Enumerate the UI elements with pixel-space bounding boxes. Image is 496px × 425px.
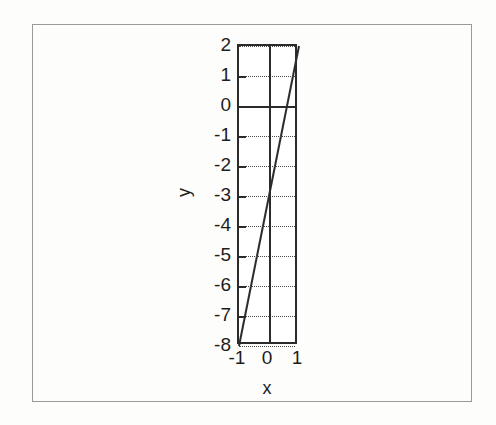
y-tick-label: -1 [214,125,231,144]
y-tick-label: 1 [220,65,231,84]
y-axis-tick-labels: 210-1-2-3-4-5-6-7-8 [195,44,231,344]
y-gridline [239,316,295,317]
y-tick-label: -4 [214,215,231,234]
y-tick-mark [239,286,246,288]
y-tick-mark [239,136,246,138]
y-tick-label: -7 [214,305,231,324]
y-gridline [239,136,295,137]
y-axis-title: y [174,173,195,213]
y-gridline [239,256,295,257]
figure-page: 210-1-2-3-4-5-6-7-8 -101 x y [0,0,496,425]
y-tick-mark [239,226,246,228]
y-tick-mark [239,166,246,168]
y-zero-axis-line [239,106,295,108]
y-tick-label: -6 [214,275,231,294]
y-tick-label: 2 [220,35,231,54]
y-gridline [239,46,295,47]
y-gridline [239,226,295,227]
y-gridline [239,196,295,197]
y-tick-mark [239,76,246,78]
x-zero-axis-line [269,46,271,342]
y-tick-mark [239,256,246,258]
x-axis-tick-labels: -101 [237,348,297,372]
y-tick-label: -3 [214,185,231,204]
y-gridline [239,286,295,287]
x-tick-label: 0 [262,348,273,367]
y-tick-label: -5 [214,245,231,264]
x-tick-label: 1 [292,348,303,367]
y-gridline [239,76,295,77]
x-axis-title: x [237,378,297,399]
y-tick-label: 0 [220,95,231,114]
y-tick-mark [239,316,246,318]
y-tick-label: -2 [214,155,231,174]
y-gridline [239,166,295,167]
x-tick-label: -1 [229,348,246,367]
y-tick-mark [239,196,246,198]
plot-area [237,44,297,344]
